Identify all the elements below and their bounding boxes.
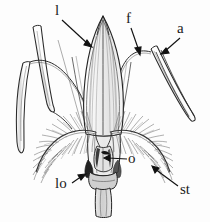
- botanical-figure: l f a o lo st: [0, 0, 210, 222]
- label-lemma: l: [55, 3, 59, 18]
- label-stigma: st: [180, 182, 190, 197]
- label-ovary: o: [128, 151, 136, 166]
- label-lodicule: lo: [55, 176, 67, 191]
- label-anther: a: [177, 21, 184, 36]
- label-filament: f: [126, 11, 131, 26]
